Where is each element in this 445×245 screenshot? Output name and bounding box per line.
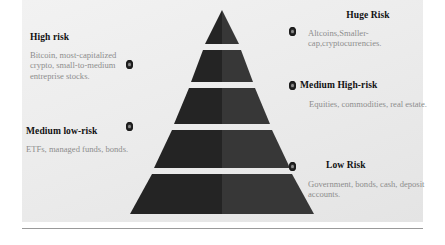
label-body-high-risk: Bitcoin, most-capitalized crypto, small-… [30,50,138,81]
pyramid-level-3 [174,88,270,124]
risk-pyramid-figure: High risk Bitcoin, most-capitalized cryp… [0,0,445,245]
pyramid-level-5-left-face [130,174,222,214]
pyramid-level-3-left-face [174,88,222,124]
label-block-huge-risk: Huge Risk Altcoins,Smaller-cap,cryptocur… [300,10,436,49]
level-marker-dot-low-risk [289,162,296,171]
label-block-medium-high-risk: Medium High-risk Equities, commodities, … [300,80,436,109]
pyramid-level-1-left-face [205,10,222,44]
level-marker-dot-huge-risk [289,27,296,36]
label-heading-huge-risk: Huge Risk [300,10,436,20]
label-heading-high-risk: High risk [30,32,138,42]
pyramid-level-4-right-face [222,130,290,168]
label-block-high-risk: High risk Bitcoin, most-capitalized cryp… [30,32,138,81]
label-body-medium-high-risk: Equities, commodities, real estate. [300,99,436,109]
label-block-low-risk: Low Risk Government, bonds, cash, deposi… [300,160,436,200]
label-heading-medium-high-risk: Medium High-risk [300,80,436,90]
pyramid-level-2 [191,50,253,82]
label-body-huge-risk: Altcoins,Smaller-cap,cryptocurrencies. [300,28,436,49]
pyramid-graphic [125,8,320,224]
pyramid-level-4-left-face [154,130,222,168]
pyramid-level-1-right-face [222,10,239,44]
label-heading-low-risk: Low Risk [300,160,436,170]
pyramid-level-2-left-face [191,50,222,82]
pyramid-level-1 [205,10,239,44]
label-body-low-risk: Government, bonds, cash, deposit account… [300,179,436,200]
pyramid-level-3-right-face [222,88,270,124]
bottom-divider-rule [22,228,423,229]
pyramid-svg [125,8,320,220]
pyramid-level-5 [130,174,314,214]
level-marker-dot-medium-high-risk [289,81,296,90]
label-body-medium-low-risk: ETFs, managed funds, bonds. [26,144,138,154]
label-heading-medium-low-risk: Medium low-risk [26,126,138,136]
pyramid-level-4 [154,130,290,168]
pyramid-level-2-right-face [222,50,253,82]
label-block-medium-low-risk: Medium low-risk ETFs, managed funds, bon… [26,126,138,154]
